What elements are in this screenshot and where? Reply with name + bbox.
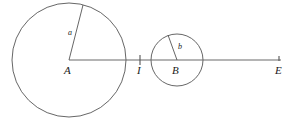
segment-label-a: a bbox=[68, 29, 72, 37]
geometry-figure: A I B E a b bbox=[0, 0, 294, 123]
point-label-e: E bbox=[275, 65, 282, 76]
point-label-b: B bbox=[172, 65, 179, 76]
figure-canvas bbox=[0, 0, 294, 123]
point-label-i: I bbox=[137, 65, 141, 76]
point-label-a: A bbox=[64, 65, 71, 76]
segment-label-b: b bbox=[178, 43, 182, 51]
radius-segment-b bbox=[168, 35, 177, 60]
